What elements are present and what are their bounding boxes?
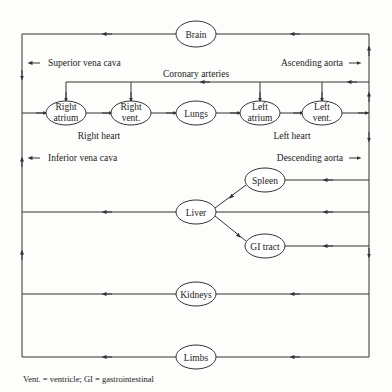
left-heart-text: Left heart	[273, 131, 311, 141]
node-gi-tract: GI tract	[245, 234, 285, 258]
node-brain: Brain	[176, 21, 216, 47]
node-lungs-label: Lungs	[184, 109, 208, 119]
node-kidneys: Kidneys	[176, 282, 216, 306]
node-right-atrium: Right atrium	[46, 101, 86, 125]
descending-aorta-text: Descending aorta	[277, 153, 344, 163]
node-left-atrium-line1: Left	[252, 102, 268, 112]
node-spleen-label: Spleen	[252, 176, 278, 186]
label-inferior-vena-cava: Inferior vena cava	[30, 153, 118, 163]
right-heart-text: Right heart	[78, 131, 121, 141]
label-superior-vena-cava: Superior vena cava	[30, 58, 122, 68]
node-left-atrium-line2: atrium	[248, 113, 273, 123]
footnote: Vent. = ventricle; GI = gastrointestinal	[23, 374, 155, 384]
node-liver: Liver	[176, 200, 216, 224]
node-right-vent-line1: Right	[120, 102, 141, 112]
node-spleen: Spleen	[245, 168, 285, 192]
node-right-vent-line2: vent.	[122, 113, 141, 123]
node-left-vent-line1: Left	[314, 102, 330, 112]
label-ascending-aorta: Ascending aorta	[281, 58, 359, 68]
circulation-diagram: Brain Right atrium Right vent. Lungs Lef…	[0, 0, 392, 392]
node-brain-label: Brain	[185, 30, 206, 40]
node-right-vent: Right vent.	[111, 101, 151, 125]
node-left-atrium: Left atrium	[240, 101, 280, 125]
node-right-atrium-line2: atrium	[54, 113, 79, 123]
node-lungs: Lungs	[176, 101, 216, 125]
coronary-arteries-text: Coronary arteries	[163, 69, 230, 79]
inferior-vena-cava-text: Inferior vena cava	[48, 153, 118, 163]
node-limbs-label: Limbs	[184, 353, 209, 363]
node-left-vent: Left vent.	[302, 101, 342, 125]
node-limbs: Limbs	[176, 345, 216, 369]
vessel-lines	[22, 34, 369, 357]
node-right-atrium-line1: Right	[55, 102, 76, 112]
node-left-vent-line2: vent.	[313, 113, 332, 123]
node-kidneys-label: Kidneys	[180, 290, 212, 300]
ascending-aorta-text: Ascending aorta	[281, 58, 344, 68]
node-liver-label: Liver	[186, 208, 207, 218]
node-gi-tract-label: GI tract	[250, 242, 280, 252]
superior-vena-cava-text: Superior vena cava	[48, 58, 122, 68]
label-descending-aorta: Descending aorta	[277, 153, 359, 163]
